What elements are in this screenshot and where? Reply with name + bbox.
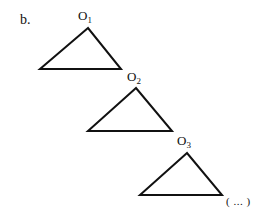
vertex-label-o3: O3 xyxy=(177,134,191,150)
vertex-label-subscript: 1 xyxy=(87,15,92,25)
continuation-ellipsis: ( ... ) xyxy=(226,196,251,207)
triangle-o2 xyxy=(88,88,172,131)
diagram-canvas: b. O1 O2 O3 ( ... ) xyxy=(0,0,260,219)
vertex-label-subscript: 2 xyxy=(136,76,141,86)
triangle-o1 xyxy=(40,28,121,69)
vertex-label-base: O xyxy=(78,8,87,23)
triangle-sequence xyxy=(0,0,260,219)
triangle-o3 xyxy=(140,153,222,195)
vertex-label-o1: O1 xyxy=(78,9,92,25)
vertex-label-subscript: 3 xyxy=(186,140,191,150)
vertex-label-base: O xyxy=(127,69,136,84)
vertex-label-o2: O2 xyxy=(127,70,141,86)
vertex-label-base: O xyxy=(177,133,186,148)
